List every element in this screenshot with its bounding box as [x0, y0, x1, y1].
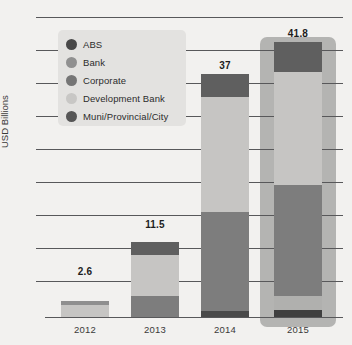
legend-label-muni: Muni/Provincial/City: [83, 111, 168, 122]
segment-2013-development-bank: [131, 255, 179, 296]
legend-item-bank[interactable]: Bank: [66, 53, 105, 71]
legend-item-muni[interactable]: Muni/Provincial/City: [66, 107, 168, 125]
x-tick-2012: 2012: [61, 324, 109, 335]
bar-2014[interactable]: [201, 74, 249, 319]
legend-label-abs: ABS: [83, 39, 102, 50]
legend-item-corporate[interactable]: Corporate: [66, 71, 126, 89]
legend-label-bank: Bank: [83, 57, 105, 68]
segment-2013-corporate: [131, 296, 179, 319]
legend-swatch-bank-icon: [66, 57, 77, 68]
segment-2015-development-bank-lower: [274, 296, 322, 311]
legend-item-abs[interactable]: ABS: [66, 35, 102, 53]
value-label-2014: 37: [201, 60, 249, 71]
segment-2015-bank: [274, 42, 322, 73]
segment-2014-corporate: [201, 212, 249, 311]
legend-swatch-corporate-icon: [66, 75, 77, 86]
legend-swatch-abs-icon: [66, 39, 77, 50]
bar-2012[interactable]: [61, 301, 109, 318]
segment-2013-bank: [131, 242, 179, 255]
value-label-2015: 41.8: [274, 28, 322, 39]
legend-item-development-bank[interactable]: Development Bank: [66, 89, 165, 107]
bar-2013[interactable]: [131, 242, 179, 318]
legend-swatch-muni-icon: [66, 111, 77, 122]
bar-2015[interactable]: [274, 42, 322, 319]
segment-2014-development-bank: [201, 97, 249, 213]
legend-swatch-development-bank-icon: [66, 93, 77, 104]
y-axis-title: USD Billions: [0, 95, 10, 148]
segment-2015-corporate: [274, 185, 322, 296]
value-label-2012: 2.6: [61, 266, 109, 277]
segment-2015-development-bank: [274, 72, 322, 185]
x-tick-2014: 2014: [201, 324, 249, 335]
x-tick-2015: 2015: [274, 324, 322, 335]
segment-2014-bank: [201, 74, 249, 97]
legend: ABS Bank Corporate Development Bank Muni…: [58, 30, 186, 126]
legend-label-corporate: Corporate: [83, 75, 126, 86]
legend-label-development-bank: Development Bank: [83, 93, 165, 104]
x-tick-2013: 2013: [131, 324, 179, 335]
gridline-45: [45, 17, 343, 18]
stacked-bar-chart: USD Billions 45 40 35 30 25 20 15 10 5 0…: [0, 0, 352, 345]
x-axis-line: [45, 317, 343, 318]
value-label-2013: 11.5: [131, 219, 179, 230]
